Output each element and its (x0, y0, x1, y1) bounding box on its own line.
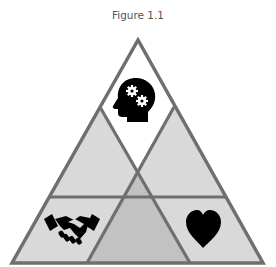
triangle-diagram (0, 0, 276, 267)
